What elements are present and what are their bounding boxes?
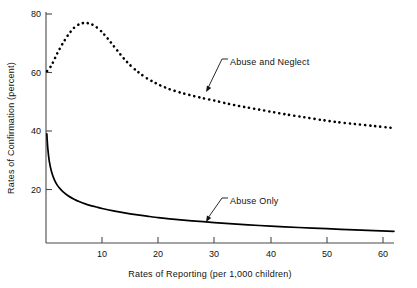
x-axis-title: Rates of Reporting (per 1,000 children) xyxy=(128,269,291,279)
series-line-abuse-only xyxy=(47,134,394,231)
annotation-label-abuse-and-neglect: Abuse and Neglect xyxy=(230,57,310,67)
annotation-abuse-only: Abuse Only xyxy=(206,196,279,222)
annotation-arrowhead-1 xyxy=(206,216,211,223)
y-tick-label-60: 60 xyxy=(31,68,41,78)
y-axis-title: Rates of Confirmation (percent) xyxy=(6,62,16,194)
annotation-arrowhead-0 xyxy=(206,86,211,93)
annotation-label-abuse-only: Abuse Only xyxy=(230,196,279,206)
x-tick-labels: 10 20 30 40 50 60 xyxy=(97,249,388,259)
x-tick-label-10: 10 xyxy=(97,249,107,259)
series-line-abuse-and-neglect xyxy=(47,23,394,128)
annotation-leader-line-1 xyxy=(208,198,228,218)
chart-figure: 80 60 40 20 10 20 30 40 50 60 Rates of R… xyxy=(0,0,417,288)
x-tick-label-60: 60 xyxy=(378,249,388,259)
y-tick-label-40: 40 xyxy=(31,126,41,136)
x-tick-label-50: 50 xyxy=(322,249,332,259)
annotation-leader-line-0 xyxy=(208,59,228,88)
chart-canvas: 80 60 40 20 10 20 30 40 50 60 Rates of R… xyxy=(0,0,417,288)
x-tick-label-30: 30 xyxy=(209,249,219,259)
y-tick-label-20: 20 xyxy=(31,185,41,195)
y-tick-labels: 80 60 40 20 xyxy=(31,9,41,195)
x-tick-label-40: 40 xyxy=(266,249,276,259)
x-tick-label-20: 20 xyxy=(153,249,163,259)
y-tick-label-80: 80 xyxy=(31,9,41,19)
annotation-abuse-and-neglect: Abuse and Neglect xyxy=(206,57,310,92)
